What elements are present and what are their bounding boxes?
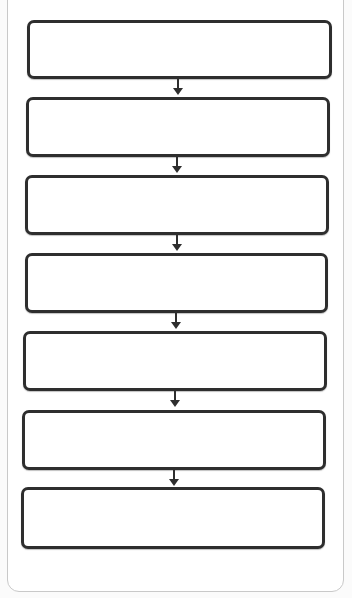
flow-box-6[interactable] — [22, 410, 326, 470]
arrow-down-icon — [172, 235, 182, 251]
flow-box-2[interactable] — [26, 97, 330, 157]
flow-box-1[interactable] — [27, 20, 332, 79]
arrow-down-icon — [171, 313, 181, 329]
arrow-down-icon — [173, 79, 183, 95]
arrow-down-icon — [170, 391, 180, 407]
flow-box-7[interactable] — [21, 487, 325, 549]
flow-box-5[interactable] — [23, 331, 327, 391]
flow-box-3[interactable] — [25, 175, 329, 235]
flow-box-4[interactable] — [25, 253, 328, 313]
arrow-down-icon — [169, 470, 179, 486]
arrow-down-icon — [172, 157, 182, 173]
